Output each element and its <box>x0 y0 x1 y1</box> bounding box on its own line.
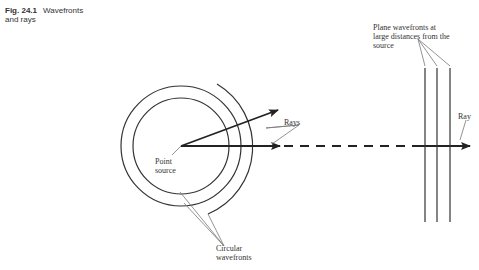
point-source-leader <box>172 146 181 155</box>
point-source-label: Point source <box>155 157 176 175</box>
oblique-ray <box>181 110 278 146</box>
circular-wavefront-leader-1 <box>180 192 224 246</box>
outer-circular-wavefront-arc <box>208 84 253 214</box>
circular-wavefronts-label: Circular wavefronts <box>216 244 252 262</box>
circular-wavefront-leader-3 <box>208 214 224 246</box>
ray-leader <box>460 120 466 140</box>
rays-label: Rays <box>284 118 300 127</box>
ray-label: Ray <box>458 112 471 121</box>
plane-wavefronts-label: Plane wavefronts at large distances from… <box>373 23 450 50</box>
